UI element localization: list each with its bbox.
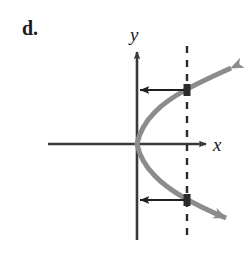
y-axis-label: y <box>128 24 139 45</box>
figure-container: d. x y <box>0 0 249 258</box>
upper-intersection-point <box>184 84 191 96</box>
x-axis-label: x <box>212 134 222 155</box>
lower-intersection-point <box>184 194 191 206</box>
graph-canvas: x y <box>0 0 249 258</box>
